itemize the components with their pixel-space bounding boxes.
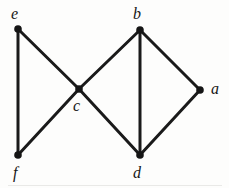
edges-group: [18, 29, 200, 155]
graph-edge-b-a: [140, 30, 200, 90]
vertex-label-f: f: [13, 165, 17, 181]
graph-edge-e-c: [18, 29, 79, 89]
graph-vertex-f: [14, 151, 22, 159]
graph-vertex-c: [75, 85, 83, 93]
graph-canvas: [0, 0, 229, 188]
vertex-label-a: a: [211, 81, 219, 97]
graph-edge-f-c: [18, 89, 79, 155]
vertex-label-c: c: [73, 98, 80, 114]
vertex-label-d: d: [133, 165, 141, 181]
graph-edge-c-d: [79, 89, 140, 155]
vertices-group: [14, 25, 204, 159]
graph-vertex-b: [136, 26, 144, 34]
graph-figure: ebcafd: [0, 0, 229, 188]
vertex-label-b: b: [133, 6, 141, 22]
graph-vertex-d: [136, 151, 144, 159]
graph-vertex-e: [14, 25, 22, 33]
graph-edge-a-d: [140, 90, 200, 155]
graph-vertex-a: [196, 86, 204, 94]
graph-edge-c-b: [79, 30, 140, 89]
page-baseline-artifact: [8, 185, 222, 186]
vertex-label-e: e: [11, 6, 18, 22]
